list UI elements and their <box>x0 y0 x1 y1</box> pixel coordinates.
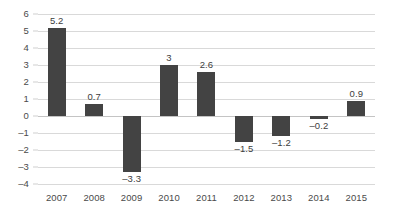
y-axis-tick-label: 2 <box>24 77 29 87</box>
y-axis-tick-label: –1 <box>18 128 29 138</box>
x-axis-tick-label: 2015 <box>345 193 367 203</box>
x-axis-tick-label: 2011 <box>196 193 217 203</box>
bar-value-label: 0.7 <box>87 92 101 102</box>
y-axis-tick-label: –4 <box>18 179 29 189</box>
y-axis-tick-label: 5 <box>24 26 29 36</box>
bar-value-label: 2.6 <box>200 60 214 70</box>
y-axis-tick-label: 1 <box>24 94 29 104</box>
bar-group: –1.5 <box>225 14 262 184</box>
bar-value-label: –1.2 <box>272 138 291 148</box>
bar[interactable] <box>272 116 290 136</box>
bar-group: 0.7 <box>75 14 112 184</box>
bar-value-label: 0.9 <box>350 89 364 99</box>
bar[interactable] <box>235 116 253 142</box>
bar[interactable] <box>123 116 141 172</box>
bar-value-label: –1.5 <box>234 144 253 154</box>
bar-value-label: –3.3 <box>122 174 141 184</box>
bar-group: –0.2 <box>300 14 337 184</box>
bar-value-label: –0.2 <box>309 121 328 131</box>
bar[interactable] <box>310 116 328 119</box>
x-axis-tick-label: 2007 <box>46 193 68 203</box>
x-axis-tick-label: 2009 <box>121 193 143 203</box>
y-axis-tick-label: 6 <box>24 9 29 19</box>
x-axis-tick-label: 2013 <box>271 193 293 203</box>
bar[interactable] <box>160 65 178 116</box>
bar-chart: 6543210–1–2–3–4 5.20.7–3.332.6–1.5–1.2–0… <box>0 0 407 221</box>
gridline <box>38 184 375 185</box>
x-axis-tick-label: 2010 <box>158 193 180 203</box>
x-axis-tick-label: 2014 <box>308 193 330 203</box>
bar-group: –3.3 <box>113 14 150 184</box>
bar-value-label: 5.2 <box>50 16 64 26</box>
bar-group: 5.2 <box>38 14 75 184</box>
bar[interactable] <box>85 104 103 116</box>
plot-area: 5.20.7–3.332.6–1.5–1.2–0.20.9 <box>38 14 375 184</box>
y-axis-tick-label: –3 <box>18 162 29 172</box>
y-axis-tick-label: 3 <box>24 60 29 70</box>
bar-value-label: 3 <box>166 53 171 63</box>
bar-group: 2.6 <box>188 14 225 184</box>
bar[interactable] <box>197 72 215 116</box>
x-axis-tick-label: 2008 <box>83 193 105 203</box>
bar[interactable] <box>48 28 66 116</box>
bar-group: 0.9 <box>338 14 375 184</box>
bar[interactable] <box>347 101 365 116</box>
bar-group: 3 <box>150 14 187 184</box>
y-axis: 6543210–1–2–3–4 <box>0 14 34 184</box>
x-axis: 200720082009201020112012201320142015 <box>38 193 375 209</box>
bar-group: –1.2 <box>263 14 300 184</box>
y-axis-tick-label: 0 <box>24 111 29 121</box>
y-axis-tick-label: –2 <box>18 145 29 155</box>
y-axis-tick-label: 4 <box>24 43 29 53</box>
x-axis-tick-label: 2012 <box>233 193 255 203</box>
